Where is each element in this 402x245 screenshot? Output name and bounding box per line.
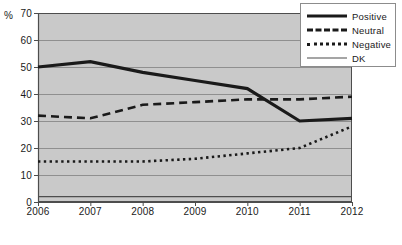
- legend-item-label: DK: [352, 53, 366, 64]
- legend-item: Neutral: [307, 23, 389, 37]
- x-axis-tick-label: 2011: [280, 206, 320, 217]
- thin-line-icon: [307, 53, 347, 63]
- line-chart: % 706050403020100 2006200720082009201020…: [0, 0, 402, 245]
- dashed-line-icon: [307, 25, 347, 35]
- legend-item-label: Negative: [352, 39, 391, 50]
- x-axis-tick-label: 2012: [332, 206, 372, 217]
- x-axis-tick-label: 2010: [227, 206, 267, 217]
- chart-legend: PositiveNeutralNegativeDK: [300, 3, 396, 67]
- dotted-line-icon: [307, 39, 347, 49]
- x-axis-tick-label: 2008: [123, 206, 163, 217]
- x-axis-tick-label: 2006: [18, 206, 58, 217]
- x-axis-tick-label: 2007: [70, 206, 110, 217]
- legend-item: DK: [307, 51, 389, 65]
- legend-item-label: Positive: [352, 11, 387, 22]
- legend-item-label: Neutral: [352, 25, 384, 36]
- legend-item: Positive: [307, 9, 389, 23]
- legend-item: Negative: [307, 37, 389, 51]
- x-axis-tick-label: 2009: [175, 206, 215, 217]
- solid-thick-line-icon: [307, 11, 347, 21]
